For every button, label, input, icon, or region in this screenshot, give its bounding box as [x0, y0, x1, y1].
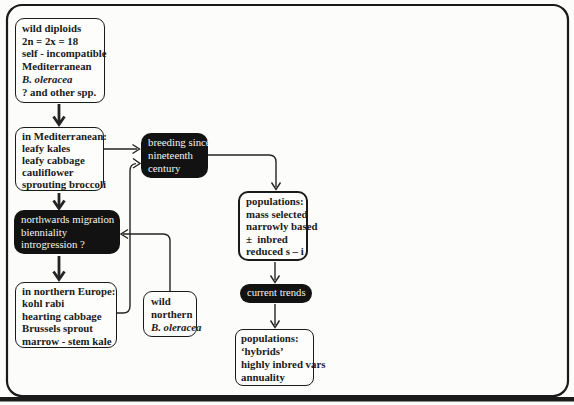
text-line-species: B. oleracea	[151, 321, 189, 334]
arrow-breeding-to-populations	[208, 155, 276, 187]
text-line: in Mediterranean:	[22, 130, 97, 142]
text-line: introgression ?	[21, 238, 113, 251]
text-line: breeding since	[148, 136, 201, 149]
text-line: hearting cabbage	[22, 310, 110, 322]
text-line: bienniality	[21, 226, 113, 239]
figure: wild diploids 2n = 2x = 18 self - incomp…	[0, 0, 574, 405]
box-wild-diploids: wild diploids 2n = 2x = 18 self - incomp…	[15, 18, 105, 103]
text-line: ± inbred	[246, 233, 300, 246]
text-line: Mediterranean	[22, 60, 98, 73]
text-line: sprouting broccoli	[22, 178, 97, 190]
text-line: marrow - stem kale	[22, 335, 110, 347]
box-populations-mass: populations: mass selected narrowly base…	[238, 191, 308, 261]
box-populations-hybrids: populations: ‘hybrids’ highly inbred var…	[235, 329, 314, 386]
text-line: cauliflower	[22, 166, 97, 178]
text-line: in northern Europe:	[22, 285, 110, 297]
text-line-karyotype: 2n = 2x = 18	[22, 35, 98, 48]
text-line: wild	[151, 295, 189, 308]
box-wild-northern: wild northern B. oleracea	[143, 291, 197, 337]
text-line: reduced s – i	[246, 245, 300, 258]
text-line: mass selected	[246, 208, 300, 221]
text-line: Brussels sprout	[22, 322, 110, 334]
text-line: wild diploids	[22, 22, 98, 35]
text-line: leafy cabbage	[22, 154, 97, 166]
box-in-northern-europe: in northern Europe: kohl rabi hearting c…	[15, 282, 117, 348]
box-northwards-migration: northwards migration bienniality introgr…	[14, 210, 120, 254]
text-line: leafy kales	[22, 142, 97, 154]
text-line: populations:	[241, 332, 308, 345]
text-line: self - incompatible	[22, 47, 98, 60]
box-breeding-since: breeding since nineteenth century	[141, 133, 208, 178]
text-line: populations:	[246, 195, 300, 208]
text-line: ‘hybrids’	[241, 345, 308, 358]
text-line: highly inbred vars	[241, 358, 308, 371]
text-line: century	[148, 162, 201, 175]
text-line-species: B. oleracea	[22, 73, 98, 86]
box-current-trends: current trends	[240, 284, 312, 303]
page-bottom-edge	[0, 397, 574, 402]
text-line: annuality	[241, 371, 308, 384]
text-line: current trends	[247, 286, 305, 299]
text-line: nineteenth	[148, 149, 201, 162]
text-line: narrowly based	[246, 220, 300, 233]
text-line: northern	[151, 308, 189, 321]
text-line: kohl rabi	[22, 297, 110, 309]
text-line: northwards migration	[21, 213, 113, 226]
box-in-mediterranean: in Mediterranean: leafy kales leafy cabb…	[15, 127, 104, 191]
text-line: ? and other spp.	[22, 86, 98, 99]
